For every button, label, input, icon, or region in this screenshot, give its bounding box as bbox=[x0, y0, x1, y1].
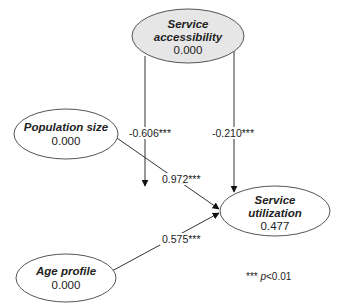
node-service-accessibility: Service accessibility 0.000 bbox=[132, 9, 244, 63]
svg-text:0.477: 0.477 bbox=[261, 220, 290, 232]
svg-text:Service: Service bbox=[255, 194, 297, 206]
node-age-profile: Age profile 0.000 bbox=[16, 254, 116, 302]
edge-label-accessibility-population: -0.606*** bbox=[129, 127, 171, 139]
edge-label-accessibility-utilization: -0.210*** bbox=[212, 127, 254, 139]
svg-text:0.000: 0.000 bbox=[52, 279, 81, 291]
node-population-size: Population size 0.000 bbox=[14, 109, 118, 159]
svg-text:Service: Service bbox=[168, 18, 210, 30]
svg-text:Population size: Population size bbox=[24, 121, 109, 133]
edge-label-age-utilization: 0.575*** bbox=[162, 233, 201, 245]
edge-label-population-utilization: 0.972*** bbox=[162, 173, 201, 185]
svg-text:0.000: 0.000 bbox=[174, 44, 203, 56]
svg-text:*** p<0.01: *** p<0.01 bbox=[246, 271, 292, 282]
svg-text:utilization: utilization bbox=[248, 207, 302, 219]
svg-text:0.000: 0.000 bbox=[52, 135, 81, 147]
svg-text:accessibility: accessibility bbox=[154, 31, 223, 43]
significance-note: *** p<0.01 bbox=[246, 271, 292, 282]
node-service-utilization: Service utilization 0.477 bbox=[220, 186, 330, 236]
svg-text:Age profile: Age profile bbox=[35, 265, 97, 277]
path-diagram: -0.606*** -0.210*** 0.972*** 0.575*** Se… bbox=[0, 0, 361, 307]
